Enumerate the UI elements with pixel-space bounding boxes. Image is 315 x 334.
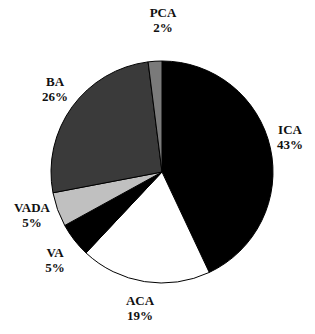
label-ba-name: BA <box>38 74 72 89</box>
label-va: VA 5% <box>40 245 70 275</box>
label-vada-name: VADA <box>10 200 54 215</box>
label-pca-name: PCA <box>138 5 188 20</box>
label-va-pct: 5% <box>40 260 70 275</box>
label-ica-pct: 43% <box>270 137 310 152</box>
label-pca: PCA 2% <box>138 5 188 35</box>
pie-chart <box>0 0 315 334</box>
label-ba-pct: 26% <box>38 89 72 104</box>
label-vada: VADA 5% <box>10 200 54 230</box>
label-aca-pct: 19% <box>120 308 160 323</box>
label-aca-name: ACA <box>120 293 160 308</box>
label-aca: ACA 19% <box>120 293 160 323</box>
label-ica-name: ICA <box>270 122 310 137</box>
label-va-name: VA <box>40 245 70 260</box>
label-ica: ICA 43% <box>270 122 310 152</box>
label-vada-pct: 5% <box>10 215 54 230</box>
label-pca-pct: 2% <box>138 20 188 35</box>
label-ba: BA 26% <box>38 74 72 104</box>
